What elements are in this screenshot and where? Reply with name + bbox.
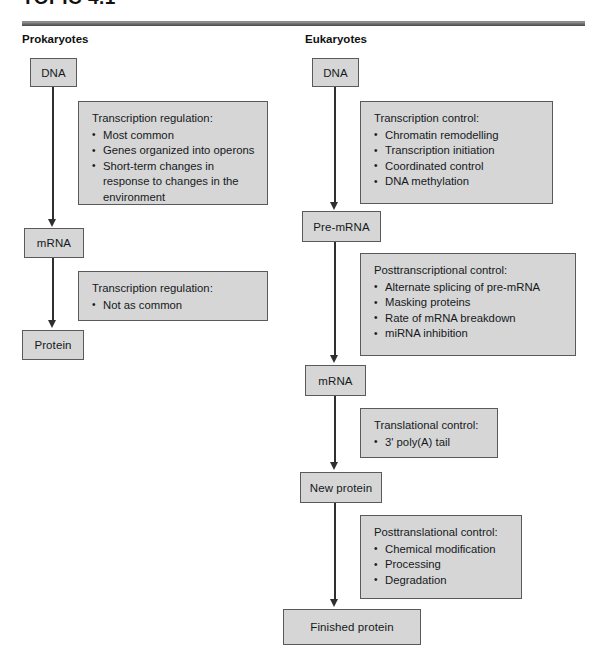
list-item-text: 3' poly(A) tail bbox=[385, 436, 450, 448]
flowchart-page: TOPIC 4.1 Prokaryotes Eukaryotes DNA Tra… bbox=[0, 0, 591, 664]
panel-list: Most common Genes organized into operons… bbox=[92, 128, 257, 206]
arrow-prok-mrna-to-protein-head bbox=[48, 320, 56, 328]
list-item: Chemical modification bbox=[374, 542, 511, 558]
list-item: Transcription initiation bbox=[374, 143, 542, 159]
list-item: miRNA inhibition bbox=[374, 326, 565, 342]
panel-title: Posttranslational control: bbox=[374, 525, 511, 541]
column-heading-eukaryotes: Eukaryotes bbox=[305, 33, 367, 45]
node-eukaryote-dna: DNA bbox=[312, 58, 359, 87]
panel-prokaryote-transcription-regulation: Transcription regulation: Most common Ge… bbox=[78, 101, 268, 205]
arrow-euk-premrna-to-mrna-head bbox=[330, 355, 338, 363]
node-eukaryote-finished-protein: Finished protein bbox=[283, 609, 421, 645]
list-item-text: Most common bbox=[103, 129, 174, 141]
list-item: Rate of mRNA breakdown bbox=[374, 311, 565, 327]
list-item-text: Rate of mRNA breakdown bbox=[385, 312, 516, 324]
panel-title: Posttranscriptional control: bbox=[374, 263, 565, 279]
node-prokaryote-mrna: mRNA bbox=[24, 228, 84, 258]
list-item: Processing bbox=[374, 557, 511, 573]
list-item-text: DNA methylation bbox=[385, 175, 469, 187]
list-item-text: Alternate splicing of pre-mRNA bbox=[385, 281, 540, 293]
arrow-euk-premrna-to-mrna-line bbox=[334, 242, 336, 357]
list-item-text: Masking proteins bbox=[385, 296, 470, 308]
list-item: Coordinated control bbox=[374, 159, 542, 175]
clipped-running-title: TOPIC 4.1 bbox=[22, 0, 116, 9]
list-item: Not as common bbox=[92, 298, 257, 314]
list-item: Masking proteins bbox=[374, 295, 565, 311]
list-item-text: Chromatin remodelling bbox=[385, 129, 499, 141]
list-item-text: Chemical modification bbox=[385, 543, 496, 555]
arrow-euk-mrna-to-newprotein-head bbox=[330, 462, 338, 470]
arrow-euk-mrna-to-newprotein-line bbox=[334, 396, 336, 464]
panel-eukaryote-transcription-control: Transcription control: Chromatin remodel… bbox=[360, 101, 553, 204]
arrow-prok-mrna-to-protein-line bbox=[52, 258, 54, 322]
panel-eukaryote-posttranscriptional-control: Posttranscriptional control: Alternate s… bbox=[360, 253, 576, 356]
panel-list: Not as common bbox=[92, 298, 257, 314]
node-eukaryote-pre-mrna: Pre-mRNA bbox=[302, 211, 381, 242]
panel-list: Chromatin remodelling Transcription init… bbox=[374, 128, 542, 190]
arrow-prok-dna-to-mrna-head bbox=[48, 219, 56, 227]
list-item: Chromatin remodelling bbox=[374, 128, 542, 144]
arrow-euk-newprotein-to-finished-head bbox=[330, 599, 338, 607]
list-item-continuation: response to changes in the environment bbox=[103, 174, 257, 205]
list-item: 3' poly(A) tail bbox=[374, 435, 487, 451]
header-rule bbox=[22, 21, 585, 26]
list-item: Alternate splicing of pre-mRNA bbox=[374, 280, 565, 296]
node-prokaryote-protein: Protein bbox=[22, 330, 84, 360]
list-item-text: miRNA inhibition bbox=[385, 327, 468, 339]
list-item-text: Processing bbox=[385, 558, 441, 570]
panel-eukaryote-posttranslational-control: Posttranslational control: Chemical modi… bbox=[360, 515, 522, 599]
panel-title: Transcription regulation: bbox=[92, 281, 257, 297]
list-item-text: Genes organized into operons bbox=[103, 144, 254, 156]
panel-eukaryote-translational-control: Translational control: 3' poly(A) tail bbox=[360, 408, 498, 458]
column-heading-prokaryotes: Prokaryotes bbox=[22, 33, 88, 45]
arrow-euk-dna-to-premrna-head bbox=[330, 202, 338, 210]
arrow-euk-dna-to-premrna-line bbox=[334, 87, 336, 204]
panel-list: Alternate splicing of pre-mRNA Masking p… bbox=[374, 280, 565, 342]
list-item-text: Short-term changes in bbox=[103, 160, 214, 172]
arrow-prok-dna-to-mrna-line bbox=[52, 87, 54, 221]
panel-title: Translational control: bbox=[374, 418, 487, 434]
list-item: Degradation bbox=[374, 573, 511, 589]
node-eukaryote-mrna: mRNA bbox=[305, 365, 366, 396]
list-item: Most common bbox=[92, 128, 257, 144]
panel-list: 3' poly(A) tail bbox=[374, 435, 487, 451]
list-item: DNA methylation bbox=[374, 174, 542, 190]
list-item-text: Not as common bbox=[103, 299, 182, 311]
list-item-text: Degradation bbox=[385, 574, 447, 586]
arrow-euk-newprotein-to-finished-line bbox=[334, 503, 336, 601]
node-eukaryote-new-protein: New protein bbox=[300, 472, 382, 503]
list-item-text: Coordinated control bbox=[385, 160, 484, 172]
node-prokaryote-dna: DNA bbox=[30, 58, 77, 87]
panel-prokaryote-translation-regulation: Transcription regulation: Not as common bbox=[78, 271, 268, 321]
panel-list: Chemical modification Processing Degrada… bbox=[374, 542, 511, 589]
panel-title: Transcription control: bbox=[374, 111, 542, 127]
list-item-text: Transcription initiation bbox=[385, 144, 494, 156]
list-item: Short-term changes inresponse to changes… bbox=[92, 159, 257, 206]
list-item: Genes organized into operons bbox=[92, 143, 257, 159]
panel-title: Transcription regulation: bbox=[92, 111, 257, 127]
